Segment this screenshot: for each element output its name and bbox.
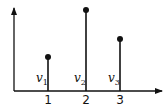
stem-3-point — [117, 36, 123, 42]
stem-1-point — [45, 54, 51, 60]
label-v1: v1 — [36, 71, 48, 87]
stem-2-point — [83, 7, 89, 13]
x-tick-2: 2 — [82, 93, 90, 106]
x-tick-1: 1 — [44, 93, 52, 106]
stem-diagram: v1 v2 v3 1 2 3 — [0, 0, 168, 106]
label-v2: v2 — [74, 71, 86, 87]
x-tick-3: 3 — [116, 93, 124, 106]
label-v3: v3 — [108, 71, 120, 87]
